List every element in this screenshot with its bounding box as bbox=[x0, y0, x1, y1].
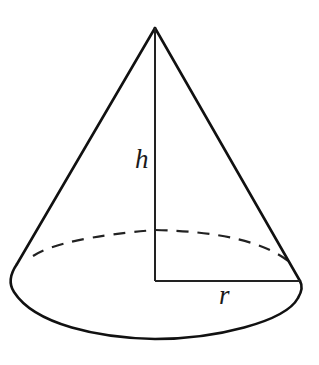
cone-right-edge bbox=[155, 28, 300, 281]
cone-diagram: h r bbox=[0, 0, 319, 365]
base-back-arc-dashed bbox=[33, 230, 292, 264]
radius-label: r bbox=[219, 280, 230, 310]
base-front-arc bbox=[11, 264, 302, 339]
height-label: h bbox=[135, 144, 149, 174]
